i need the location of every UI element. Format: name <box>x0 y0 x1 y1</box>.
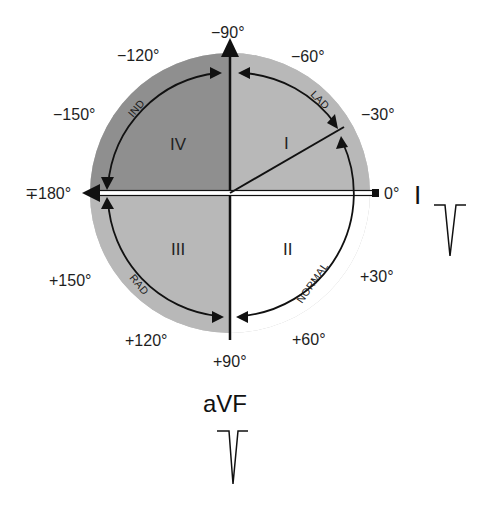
angle-label-pos60: +60° <box>292 331 326 348</box>
axis-diagram: IND LAD NORMAL RAD IV I III II −90° −60°… <box>0 0 478 515</box>
quadrant-iii-label: III <box>171 240 185 259</box>
horizontal-axis-end-square <box>372 189 379 197</box>
angle-label-pos150: +150° <box>49 272 91 289</box>
lead-avf-label: aVF <box>203 390 247 417</box>
angle-label-pm180: ∓180° <box>25 185 71 202</box>
angle-label-neg120: −120° <box>117 47 159 64</box>
angle-label-pos90: +90° <box>213 353 247 370</box>
angle-label-neg30: −30° <box>361 106 395 123</box>
angle-label-neg60: −60° <box>291 48 325 65</box>
angle-label-neg90: −90° <box>211 24 245 41</box>
angle-label-zero: 0° <box>384 185 399 202</box>
angle-label-neg150: −150° <box>53 106 95 123</box>
quadrant-ii-label: II <box>283 240 292 259</box>
angle-label-pos30: +30° <box>360 268 394 285</box>
quadrant-iii-sector <box>90 193 230 333</box>
lead-i-label: I <box>414 180 421 210</box>
angle-label-pos120: +120° <box>125 332 167 349</box>
lead-i-qrs-complex-icon <box>434 205 466 256</box>
quadrant-i-label: I <box>284 134 289 153</box>
quadrant-iv-label: IV <box>170 135 187 154</box>
lead-avf-qrs-complex-icon <box>217 431 248 484</box>
quadrant-ii-sector <box>230 193 370 333</box>
